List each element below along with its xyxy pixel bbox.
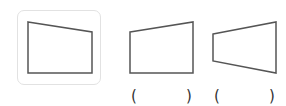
answer-blank-1-close: ) (186, 87, 192, 105)
answer-blank-2-close: ) (269, 87, 275, 105)
quadrilateral-shape-3[interactable] (213, 22, 276, 73)
quadrilateral-shape-2[interactable] (130, 22, 193, 73)
answer-blank-2-open: ( (214, 87, 220, 105)
answer-blank-1-open: ( (131, 87, 137, 105)
quadrilateral-shape-1[interactable] (28, 22, 92, 73)
shapes-canvas (0, 0, 286, 106)
